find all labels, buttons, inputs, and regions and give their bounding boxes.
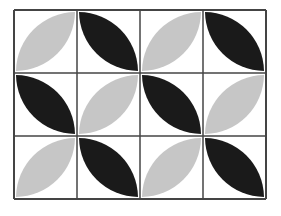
dark-petal	[79, 138, 138, 197]
dark-petal	[16, 75, 75, 134]
light-petal	[79, 75, 138, 134]
dark-petal	[142, 75, 201, 134]
light-petal	[142, 12, 201, 71]
tiling-diagram	[0, 0, 281, 216]
light-petal	[205, 75, 264, 134]
dark-petal	[205, 138, 264, 197]
light-petal	[142, 138, 201, 197]
dark-petal	[79, 12, 138, 71]
light-petal	[16, 12, 75, 71]
light-petal	[16, 138, 75, 197]
dark-petal	[205, 12, 264, 71]
